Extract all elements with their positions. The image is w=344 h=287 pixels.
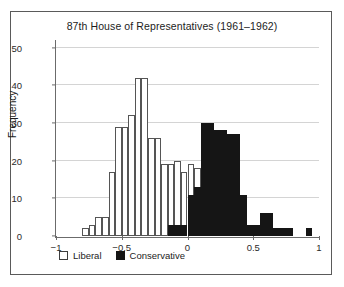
bar: [102, 217, 109, 236]
filled-square-icon: [116, 251, 125, 260]
bar: [174, 225, 181, 236]
bar: [128, 115, 135, 236]
bar: [286, 228, 293, 236]
plot-area: [56, 40, 319, 236]
hollow-square-icon: [59, 251, 68, 260]
bar: [95, 217, 102, 236]
bar: [82, 228, 89, 236]
bar: [234, 134, 241, 236]
bar: [260, 213, 267, 236]
y-tick-mark: [52, 85, 55, 86]
gridline: [56, 47, 319, 48]
x-tick-label: 0: [185, 242, 190, 253]
y-tick-mark: [52, 122, 55, 123]
y-tick-label: 30: [0, 117, 22, 128]
bar: [207, 123, 214, 236]
chart-legend: LiberalConservative: [59, 250, 185, 261]
y-tick-mark: [52, 160, 55, 161]
bar: [168, 225, 175, 236]
x-tick-mark: [56, 236, 57, 240]
bar: [148, 138, 155, 236]
y-axis-label: Frequency: [7, 91, 18, 138]
bar: [280, 228, 287, 236]
bar: [273, 228, 280, 236]
y-tick-label: 0: [0, 231, 22, 242]
y-tick-label: 20: [0, 155, 22, 166]
bar: [240, 195, 247, 236]
bar: [181, 225, 188, 236]
x-tick-mark: [253, 236, 254, 240]
chart-figure: 87th House of Representatives (1961–1962…: [10, 11, 332, 275]
gridline: [56, 84, 319, 85]
bar: [247, 225, 254, 236]
x-tick-mark: [319, 236, 320, 240]
x-tick-mark: [188, 236, 189, 240]
gridline: [56, 160, 319, 161]
legend-label: Conservative: [130, 250, 185, 261]
bar: [161, 164, 168, 236]
y-tick-label: 50: [0, 42, 22, 53]
x-tick-mark: [122, 236, 123, 240]
bar: [214, 130, 221, 236]
y-tick-mark: [52, 47, 55, 48]
bar: [115, 127, 122, 236]
bar: [109, 172, 116, 236]
bar: [227, 134, 234, 236]
y-tick-mark: [52, 235, 55, 236]
legend-entry-conservative[interactable]: Conservative: [116, 250, 185, 261]
bar: [135, 78, 142, 236]
y-tick-mark: [52, 198, 55, 199]
x-tick-label: 1: [316, 242, 321, 253]
bar: [194, 187, 201, 236]
bar: [266, 213, 273, 236]
y-tick-label: 40: [0, 80, 22, 91]
chart-title: 87th House of Representatives (1961–1962…: [11, 20, 333, 32]
legend-label: Liberal: [73, 250, 102, 261]
bar: [306, 228, 313, 236]
gridline: [56, 122, 319, 123]
x-tick-label: 0.5: [247, 242, 260, 253]
bar: [141, 78, 148, 236]
bar: [201, 123, 208, 236]
legend-entry-liberal[interactable]: Liberal: [59, 250, 102, 261]
y-tick-label: 10: [0, 193, 22, 204]
